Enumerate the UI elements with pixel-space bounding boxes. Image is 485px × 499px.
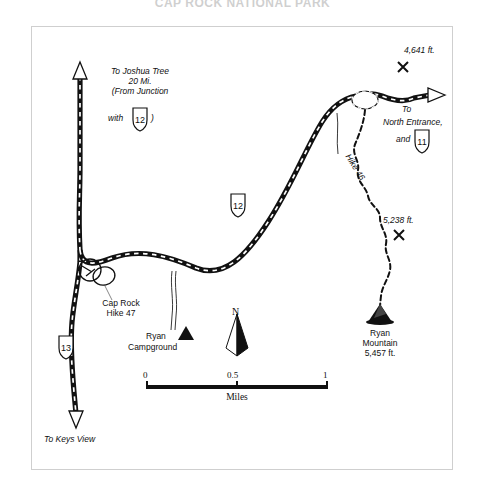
svg-text:12: 12: [135, 115, 145, 125]
shield-route-12-junction[interactable]: 12: [133, 108, 147, 131]
label-cap-rock-line1: Cap Rock: [90, 298, 152, 308]
label-north-entrance-line2: North Entrance,: [383, 117, 443, 127]
label-peak-5238: 5,238 ft.: [383, 215, 414, 225]
map-vector-layer: .road-base{fill:none;stroke:#111;stroke-…: [0, 0, 485, 499]
scale-tick-left: [146, 381, 148, 389]
label-joshua-tree-line3: (From Junction: [96, 86, 184, 96]
label-joshua-tree-with: with: [108, 113, 123, 123]
label-ryan-campground-line1: Ryan: [146, 331, 166, 341]
label-to-joshua-tree: To Joshua Tree 20 Mi. (From Junction: [96, 66, 184, 96]
arrow-to-joshua-tree: [73, 62, 87, 79]
label-ryan-mountain: Ryan Mountain 5,457 ft.: [348, 328, 412, 358]
shield-route-12-main[interactable]: 12: [231, 194, 245, 217]
ryan-campground-tent-icon: [178, 326, 194, 340]
scale-tick-label-0: 0: [143, 370, 148, 380]
label-peak-4641: 4,641 ft.: [404, 45, 435, 55]
map-figure: CAP ROCK NATIONAL PARK .road-base{fill:n…: [0, 0, 485, 499]
ryan-campground-access-road: [171, 271, 177, 330]
label-ryan-mountain-line2: Mountain: [348, 338, 412, 348]
svg-text:11: 11: [417, 137, 426, 147]
label-north-entrance-line1: To: [402, 104, 411, 114]
compass-north-label: N: [232, 306, 239, 317]
scale-tick-label-half: 0.5: [227, 370, 238, 380]
label-cap-rock-line2: Hike 47: [90, 308, 152, 318]
eastern-minor-road: [337, 113, 338, 154]
north-junction-loop: [352, 91, 378, 109]
hike-46-trail: [354, 110, 390, 312]
label-ryan-mountain-line1: Ryan: [348, 328, 412, 338]
peak-marker-5238: [394, 230, 404, 240]
scale-unit-label: Miles: [146, 392, 328, 402]
svg-text:12: 12: [233, 201, 243, 211]
label-to-keys-view: To Keys View: [44, 434, 95, 444]
label-ryan-campground-line2: Campground: [128, 342, 177, 352]
ryan-mountain-summit-icon: [366, 304, 394, 325]
label-joshua-tree-line1: To Joshua Tree: [96, 66, 184, 76]
label-joshua-tree-line2: 20 Mi.: [96, 76, 184, 86]
main-highway-road: [71, 76, 430, 414]
arrow-to-north-entrance: [428, 88, 445, 102]
peak-marker-4641: [398, 62, 408, 72]
label-joshua-tree-paren: ): [151, 113, 154, 123]
label-north-entrance-line3: and: [396, 134, 410, 144]
scale-tick-right: [326, 381, 328, 389]
svg-text:13: 13: [61, 343, 71, 353]
scale-tick-label-1: 1: [323, 370, 328, 380]
shield-route-13[interactable]: 13: [59, 336, 73, 359]
arrow-to-keys-view: [69, 411, 83, 428]
north-arrow-icon: [226, 314, 248, 356]
scale-tick-middle: [236, 381, 238, 389]
label-ryan-mountain-line3: 5,457 ft.: [348, 348, 412, 358]
shield-route-11[interactable]: 11: [415, 130, 429, 153]
label-cap-rock: Cap Rock Hike 47: [90, 298, 152, 318]
